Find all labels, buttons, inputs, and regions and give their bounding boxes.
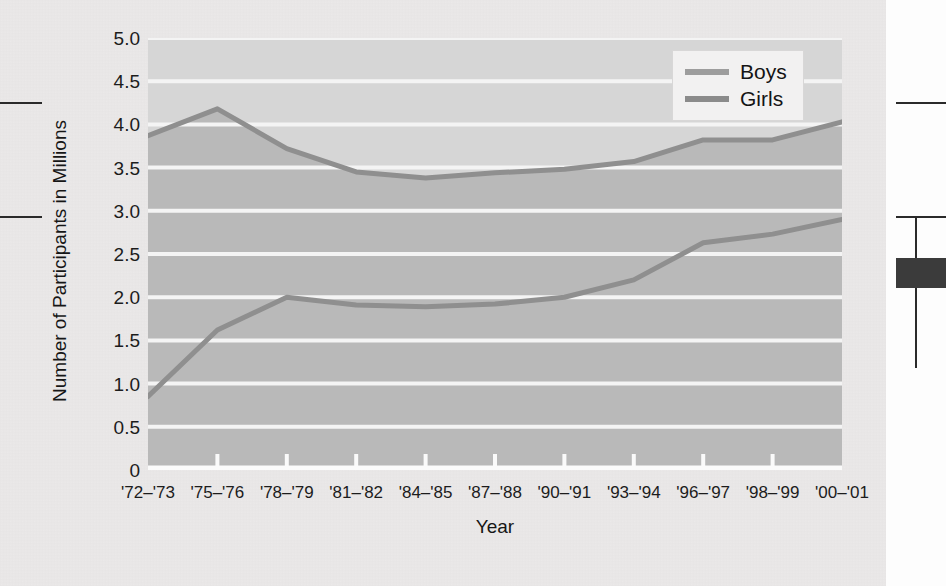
- x-axis-tick-label: '81–'82: [318, 484, 394, 501]
- legend-entry: Girls: [685, 85, 787, 112]
- y-axis-tick-label: 4.5: [94, 72, 140, 91]
- legend-label: Boys: [740, 61, 787, 82]
- y-axis-tick-label: 2.5: [94, 245, 140, 264]
- x-axis-tick-labels: '72–'73'75–'76'78–'79'81–'82'84–'85'87–'…: [148, 484, 842, 508]
- legend-label: Girls: [740, 88, 783, 109]
- legend-entry: Boys: [685, 58, 787, 85]
- y-axis-tick-label: 1.0: [94, 375, 140, 394]
- y-axis-tick-label: 5.0: [94, 29, 140, 48]
- y-axis-tick-label: 0: [94, 461, 140, 480]
- x-axis-tick-label: '98–'99: [735, 484, 811, 501]
- chart-legend: BoysGirls: [672, 50, 804, 121]
- page-rule-vertical: [915, 216, 917, 368]
- y-axis-tick-label: 2.0: [94, 288, 140, 307]
- line-chart-figure: Number of Participants in Millions 5.04.…: [0, 0, 886, 586]
- x-axis-tick-label: '78–'79: [249, 484, 325, 501]
- x-axis-tick-label: '93–'94: [596, 484, 672, 501]
- y-axis-tick-label: 0.5: [94, 418, 140, 437]
- series-line-girls: [148, 219, 842, 396]
- x-axis-tick-label: '96–'97: [665, 484, 741, 501]
- page-rule-right-top: [896, 102, 946, 104]
- x-axis-title: Year: [148, 516, 842, 538]
- x-axis-tick-label: '72–'73: [110, 484, 186, 501]
- legend-swatch-icon: [685, 96, 729, 102]
- y-axis-title: Number of Participants in Millions: [49, 51, 71, 471]
- y-axis-tick-label: 3.0: [94, 202, 140, 221]
- x-axis-tick-label: '90–'91: [526, 484, 602, 501]
- page-rule-right-middle: [896, 216, 946, 218]
- x-axis-tick-label: '84–'85: [388, 484, 464, 501]
- y-axis-tick-label: 4.0: [94, 115, 140, 134]
- y-axis-tick-label: 3.5: [94, 159, 140, 178]
- legend-swatch-icon: [685, 69, 729, 75]
- x-axis-tick-label: '00–'01: [804, 484, 880, 501]
- x-axis-tick-label: '75–'76: [179, 484, 255, 501]
- page-dark-bar: [896, 258, 946, 288]
- x-axis-tick-label: '87–'88: [457, 484, 533, 501]
- y-axis-tick-label: 1.5: [94, 331, 140, 350]
